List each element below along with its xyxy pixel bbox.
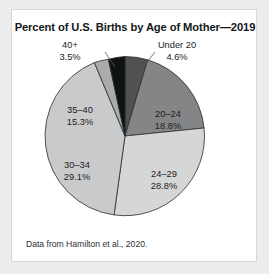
slice-label-20-24-value: 18.8% <box>155 121 181 131</box>
slice-label-24-29-name: 24–29 <box>151 169 177 179</box>
slice-label-24-29-value: 28.8% <box>151 181 177 191</box>
slice-label-30-34-name: 30–34 <box>64 160 90 170</box>
chart-card: Percent of U.S. Births by Age of Mother—… <box>11 9 257 262</box>
slice-label-30-34-value: 29.1% <box>64 172 90 182</box>
slice-callout-40-plus-name: 40+ <box>34 40 106 52</box>
slice-callout-under-20-value: 4.6% <box>136 52 218 64</box>
slice-callout-40-plus: 40+ 3.5% <box>34 40 106 63</box>
slice-callout-under-20-name: Under 20 <box>136 40 218 52</box>
slice-label-20-24-name: 20–24 <box>155 109 181 119</box>
slice-label-35-40-name: 35–40 <box>67 105 93 115</box>
source-note: Data from Hamilton et al., 2020. <box>26 239 147 249</box>
slice-callout-under-20: Under 20 4.6% <box>136 40 218 63</box>
slice-label-35-40-value: 15.3% <box>67 117 93 127</box>
slice-callout-40-plus-value: 3.5% <box>34 52 106 64</box>
